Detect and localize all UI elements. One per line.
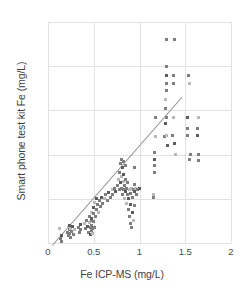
data-point [129, 192, 132, 195]
data-point [171, 134, 174, 137]
data-point [94, 215, 97, 218]
data-point [165, 65, 168, 68]
data-point [124, 164, 127, 167]
gridline-vertical [48, 22, 49, 243]
data-point [109, 196, 112, 199]
data-point [130, 226, 133, 229]
data-point [164, 98, 167, 101]
data-point [154, 116, 157, 119]
data-point [132, 219, 135, 222]
data-point [165, 116, 168, 119]
data-point [116, 184, 119, 187]
data-point [166, 144, 169, 147]
data-point [187, 74, 190, 77]
data-point [133, 204, 136, 207]
data-point [128, 215, 131, 218]
x-tick-label: 2 [211, 246, 244, 257]
data-point [165, 134, 168, 137]
data-point [173, 142, 176, 145]
x-tick-label: 1.5 [165, 246, 205, 257]
data-point [125, 202, 128, 205]
data-point [189, 153, 192, 156]
data-point [129, 203, 132, 206]
gridline-vertical [140, 22, 141, 243]
data-point [196, 134, 199, 137]
data-point [72, 233, 75, 236]
data-point [188, 82, 191, 85]
data-point [152, 196, 155, 199]
data-point [152, 193, 155, 196]
data-point [197, 153, 200, 156]
data-point [138, 187, 141, 190]
gridline-horizontal [48, 243, 231, 244]
scatter-chart: Smart phone test kit Fe (mg/L) Fe ICP-MS… [0, 0, 244, 290]
data-point [58, 227, 61, 230]
data-point [165, 74, 168, 77]
data-point [165, 38, 168, 41]
data-point [73, 228, 76, 231]
data-point [127, 197, 130, 200]
data-point [172, 74, 175, 77]
data-point [186, 134, 189, 137]
x-tick-label: 1 [120, 246, 160, 257]
data-point [188, 158, 191, 161]
data-point [106, 199, 109, 202]
data-point [111, 193, 114, 196]
data-point [79, 223, 82, 226]
data-point [101, 202, 104, 205]
data-point [91, 232, 94, 235]
data-point [78, 231, 81, 234]
data-point [84, 227, 87, 230]
data-point [135, 193, 138, 196]
gridline-vertical [231, 22, 232, 243]
data-point [131, 196, 134, 199]
data-point [186, 127, 189, 130]
x-tick-label: 0.5 [74, 246, 114, 257]
data-point [197, 159, 200, 162]
data-point [196, 127, 199, 130]
data-point [93, 226, 96, 229]
data-point [100, 196, 103, 199]
data-point [98, 199, 101, 202]
data-point [120, 175, 123, 178]
data-point [99, 205, 102, 208]
data-point [164, 122, 167, 125]
data-point [69, 236, 72, 239]
data-point [186, 116, 189, 119]
data-point [97, 211, 100, 214]
data-point [153, 158, 156, 161]
x-tick-label: 0 [28, 246, 68, 257]
data-point [165, 89, 168, 92]
data-point [90, 217, 93, 220]
data-point [79, 228, 82, 231]
data-point [127, 208, 130, 211]
data-point [153, 171, 156, 174]
data-point [133, 183, 136, 186]
gridline-vertical [185, 22, 186, 243]
data-point [153, 151, 156, 154]
data-point [60, 234, 63, 237]
data-point [197, 116, 200, 119]
data-point [172, 82, 175, 85]
data-point [126, 181, 129, 184]
data-point [172, 116, 175, 119]
data-point [121, 193, 124, 196]
data-point [174, 153, 177, 156]
data-point [173, 38, 176, 41]
data-point [107, 191, 110, 194]
data-point [164, 107, 167, 110]
data-point [121, 166, 124, 169]
data-point [60, 240, 63, 243]
data-point [114, 190, 117, 193]
data-point [153, 164, 156, 167]
data-point [123, 197, 126, 200]
data-point [131, 211, 134, 214]
data-point [165, 82, 168, 85]
data-point [92, 220, 95, 223]
data-point [122, 173, 125, 176]
data-point [133, 166, 136, 169]
data-point [154, 135, 157, 138]
data-point [118, 171, 121, 174]
plot-area [48, 22, 231, 243]
